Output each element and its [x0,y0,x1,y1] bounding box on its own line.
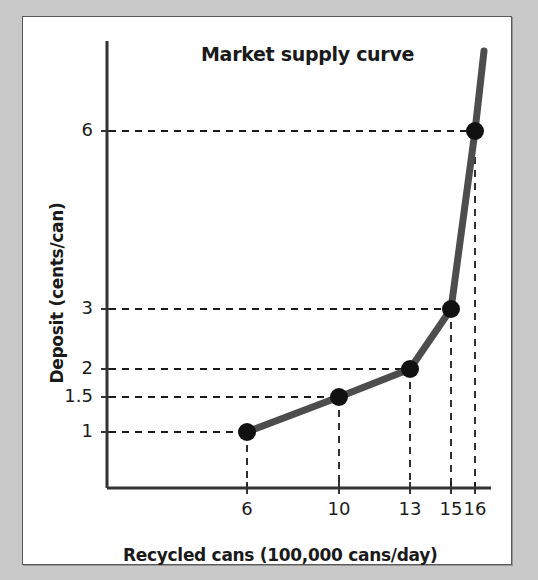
supply-curve-line [247,51,484,432]
data-point-marker [238,423,256,441]
chart-area: Market supply curve Deposit (cents/can) … [23,17,511,564]
chart-panel: Market supply curve Deposit (cents/can) … [22,16,512,565]
y-tick-label-1: 1 [33,420,93,441]
data-point-marker [442,300,460,318]
horizontal-guide-lines [109,131,475,432]
data-point-markers [238,122,484,441]
y-tick-label-6: 6 [33,119,93,140]
x-tick-label-6: 6 [227,498,267,519]
screenshot-root: Market supply curve Deposit (cents/can) … [0,0,538,580]
x-tick-label-16: 16 [455,498,495,519]
y-tick-label-3: 3 [33,297,93,318]
y-tick-label-2: 2 [33,357,93,378]
data-point-marker [330,388,348,406]
data-point-marker [401,360,419,378]
chart-title: Market supply curve [201,43,414,65]
x-tick-label-10: 10 [319,498,359,519]
y-tick-label-1-5: 1.5 [33,385,93,406]
x-axis-title: Recycled cans (100,000 cans/day) [123,545,437,565]
supply-curve-plot [23,17,511,564]
x-tick-label-13: 13 [390,498,430,519]
data-point-marker [466,122,484,140]
